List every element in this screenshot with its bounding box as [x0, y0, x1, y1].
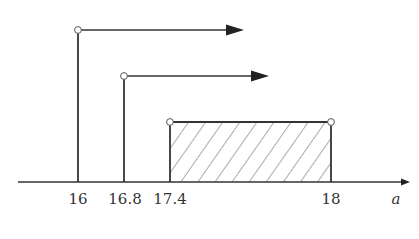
arrow-right-icon	[226, 25, 244, 36]
interval-17-4-to-18	[167, 119, 335, 182]
number-line-diagram: 16 16.8 17.4 18 a	[0, 0, 419, 239]
axis-arrow-icon	[401, 179, 410, 186]
tick-label-18: 18	[321, 190, 340, 208]
open-point-icon	[167, 119, 174, 126]
open-point-icon	[121, 73, 128, 80]
diagram-canvas: 16 16.8 17.4 18 a	[0, 0, 419, 239]
tick-label-16: 16	[68, 190, 87, 208]
tick-label-16-8: 16.8	[108, 190, 141, 208]
tick-label-17-4: 17.4	[153, 190, 186, 208]
open-point-icon	[328, 119, 335, 126]
open-point-icon	[75, 27, 82, 34]
arrow-right-icon	[251, 71, 269, 82]
axis-variable-label: a	[392, 190, 401, 208]
